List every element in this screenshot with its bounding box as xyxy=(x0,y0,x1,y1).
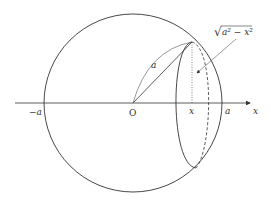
label-section-radius: a² − x² xyxy=(222,27,253,37)
radius-line xyxy=(133,42,192,103)
sqrt-icon: √ xyxy=(214,25,222,39)
label-x-axis: x xyxy=(253,106,258,116)
label-origin: O xyxy=(129,108,136,118)
label-neg-a: −a xyxy=(29,107,42,117)
sphere-cross-section-diagram: −a O x a x a √ a² − x² xyxy=(0,0,271,205)
cross-section-back xyxy=(192,42,209,168)
label-x-tick: x xyxy=(189,106,194,116)
pointer-arrow xyxy=(197,39,236,73)
cross-section-front xyxy=(176,42,196,168)
label-pos-a: a xyxy=(225,106,230,116)
label-radius-a: a xyxy=(151,60,156,70)
